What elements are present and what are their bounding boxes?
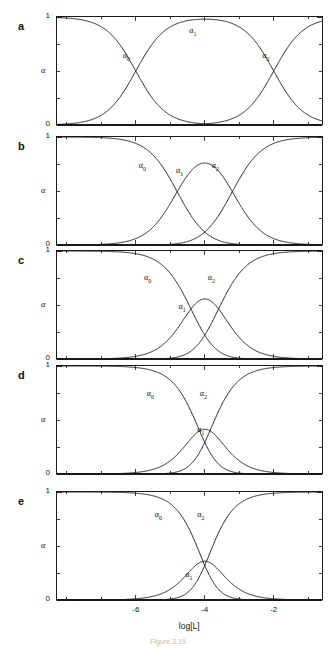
xtick-label-1: -4 [194, 606, 216, 614]
panel-e-curve-alpha0 [57, 492, 323, 600]
xtick-label-0: -6 [125, 606, 147, 614]
panel-c-curve-alpha1 [57, 299, 323, 359]
panel-b-label-alpha1: α1 [176, 167, 183, 177]
panel-b-curve-alpha0 [57, 137, 323, 245]
panel-d-label-alpha0: α0 [147, 390, 154, 400]
panel-e-y-axis-label: α [41, 541, 45, 550]
label-alpha-subscript: 0 [159, 514, 162, 520]
panel-a-ytick-label-low: 0 [34, 120, 50, 128]
label-alpha-subscript: 0 [127, 56, 130, 62]
panel-a-label-alpha0: α0 [123, 52, 130, 62]
panel-d-ytick-label-low: 0 [34, 469, 50, 477]
panel-e-curve-alpha2 [57, 492, 323, 600]
panel-d-label-alpha1: α1 [197, 426, 204, 436]
label-alpha-subscript: 0 [143, 166, 146, 172]
panel-letter-a: a [18, 21, 24, 32]
label-alpha-subscript: 0 [148, 277, 151, 283]
panel-c-curve-alpha0 [57, 251, 323, 359]
label-alpha-subscript: 2 [201, 514, 204, 520]
panel-a-curve-alpha2 [57, 21, 323, 125]
label-alpha-subscript: 2 [204, 394, 207, 400]
label-alpha-subscript: 0 [151, 394, 154, 400]
panel-d-y-axis-label: α [41, 415, 45, 424]
label-alpha-subscript: 2 [212, 277, 215, 283]
panel-a-y-axis-label: α [41, 66, 45, 75]
panel-d-curve-alpha1 [57, 429, 323, 474]
panel-b-ytick-label-high: 1 [34, 132, 50, 140]
panel-b-label-alpha0: α0 [139, 162, 146, 172]
label-alpha-subscript: 2 [216, 166, 219, 172]
panel-b-curve-alpha1 [57, 163, 323, 245]
panel-letter-d: d [18, 370, 25, 381]
xtick-label-2: -2 [263, 606, 285, 614]
panel-letter-e: e [18, 496, 24, 507]
panel-d-ytick-label-high: 1 [34, 361, 50, 369]
label-alpha-subscript: 1 [193, 31, 196, 37]
panel-d-curve-alpha0 [57, 366, 323, 474]
panel-e-label-alpha1: α1 [185, 571, 192, 581]
panel-b-y-axis-label: α [41, 186, 45, 195]
panel-a-label-alpha2: α2 [262, 52, 269, 62]
panel-b-label-alpha2: α2 [212, 162, 219, 172]
label-alpha-subscript: 1 [180, 170, 183, 176]
panel-c-y-axis-label: α [41, 300, 45, 309]
panel-letter-b: b [18, 141, 25, 152]
panel-c-label-alpha1: α1 [179, 303, 186, 313]
panel-d-label-alpha2: α2 [200, 390, 207, 400]
label-alpha-subscript: 1 [201, 429, 204, 435]
panel-e-label-alpha2: α2 [197, 511, 204, 521]
panel-b-curve-alpha2 [57, 137, 323, 245]
label-alpha-subscript: 1 [183, 307, 186, 313]
panel-e-label-alpha0: α0 [155, 511, 162, 521]
panel-a-label-alpha1: α1 [189, 27, 196, 37]
panel-e-ytick-label-high: 1 [34, 487, 50, 495]
panel-c-ytick-label-high: 1 [34, 246, 50, 254]
panel-letter-c: c [18, 255, 24, 266]
figure-root: aα10α0α1α2bα10α0α1α2cα10α0α1α2dα10α0α1α2… [0, 0, 336, 648]
label-alpha-subscript: 2 [266, 56, 269, 62]
panel-e-ytick-label-low: 0 [34, 595, 50, 603]
figure-caption: Figure 3.19 [0, 638, 336, 646]
panel-a-ytick-label-high: 1 [34, 12, 50, 20]
label-alpha-subscript: 1 [189, 575, 192, 581]
panel-c-label-alpha0: α0 [144, 274, 151, 284]
panel-c-label-alpha2: α2 [208, 274, 215, 284]
panel-d-curve-alpha2 [57, 366, 323, 474]
plot-canvas [0, 0, 336, 648]
x-axis-title: log[L] [144, 622, 234, 631]
